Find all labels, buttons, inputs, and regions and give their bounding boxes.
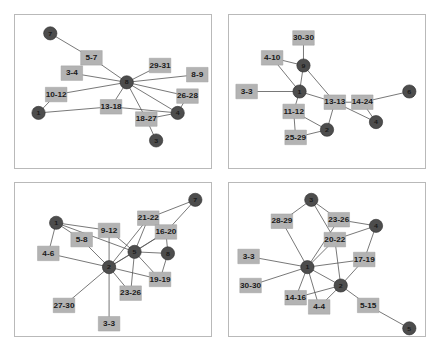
circle-node-label: 8 (125, 79, 129, 85)
square-node-label: 14-24 (352, 98, 374, 106)
square-node-label: 4-4 (313, 303, 326, 311)
panel-top-right: 30-304-103-313-1314-2411-1225-2991642 (228, 14, 426, 169)
square-node-label: 23-26 (120, 289, 141, 297)
circle-node-label: 2 (107, 264, 111, 270)
square-node-label: 26-28 (177, 92, 198, 100)
panel-bottom-left-canvas: 21-229-1216-205-84-619-1923-2627-303-371… (15, 183, 211, 336)
square-node-label: 19-19 (150, 275, 171, 283)
panel-top-right-canvas: 30-304-103-313-1314-2411-1225-2991642 (229, 15, 425, 168)
square-node-label: 30-30 (293, 34, 314, 42)
square-node-label: 27-30 (53, 301, 74, 309)
circle-node-label: 9 (302, 62, 306, 68)
circle-node-label: 7 (193, 197, 197, 203)
network-graph-figure: 5-729-313-48-910-1226-2813-1818-2778143 … (0, 0, 440, 348)
panel-top-left-canvas: 5-729-313-48-910-1226-2813-1818-2778143 (15, 15, 211, 168)
edge-group (39, 33, 198, 140)
circle-node-label: 2 (339, 282, 343, 288)
circle-node-label: 1 (298, 88, 302, 94)
circle-node-label: 2 (325, 127, 329, 133)
panel-bottom-right: 28-2923-2620-2217-193-330-3014-164-45-15… (228, 182, 426, 337)
panel-top-left: 5-729-313-48-910-1226-2813-1818-2778143 (14, 14, 212, 169)
square-node-label: 25-29 (285, 133, 306, 141)
circle-node-group: 78143 (32, 27, 184, 147)
square-node-label: 16-20 (155, 228, 176, 236)
circle-node-label: 5 (133, 249, 137, 255)
square-node-label: 4-6 (42, 249, 54, 257)
square-node-label: 5-8 (76, 236, 88, 244)
square-node-label: 30-30 (240, 282, 261, 290)
circle-node-label: 1 (37, 110, 41, 116)
circle-node-label: 6 (407, 88, 411, 94)
square-node-label: 3-4 (66, 69, 79, 77)
square-node-label: 21-22 (138, 214, 159, 222)
circle-node-label: 1 (305, 264, 309, 270)
panel-bottom-left: 21-229-1216-205-84-619-1923-2627-303-371… (14, 182, 212, 337)
square-node-label: 13-13 (324, 98, 345, 106)
circle-node-label: 4 (374, 119, 378, 125)
circle-node-label: 1 (54, 220, 58, 226)
square-node-label: 18-27 (136, 115, 157, 123)
square-node-label: 3-3 (241, 88, 253, 96)
circle-node-label: 3 (154, 137, 158, 143)
square-node-label: 13-18 (101, 103, 122, 111)
square-node-label: 17-19 (354, 256, 375, 264)
graph-edge (56, 223, 134, 252)
square-node-label: 4-10 (264, 54, 280, 62)
square-node-label: 3-3 (103, 320, 115, 328)
circle-node-label: 7 (48, 30, 52, 36)
square-node-label: 29-31 (150, 62, 171, 70)
square-node-label: 23-26 (328, 216, 349, 224)
square-node-label: 28-29 (271, 217, 292, 225)
square-node-label: 14-16 (285, 294, 306, 302)
square-node-label: 5-15 (360, 301, 376, 309)
square-node-label: 11-12 (283, 107, 304, 115)
graph-edge (127, 82, 178, 113)
square-node-label: 9-12 (101, 227, 117, 235)
circle-node-label: 3 (309, 197, 313, 203)
square-node-label: 10-12 (46, 91, 67, 99)
circle-node-label: 5 (407, 325, 411, 331)
square-node-label: 5-7 (85, 54, 97, 62)
square-node-label: 8-9 (191, 71, 203, 79)
circle-node-label: 4 (374, 223, 378, 229)
square-node-label: 3-3 (243, 253, 255, 261)
panel-bottom-right-canvas: 28-2923-2620-2217-193-330-3014-164-45-15… (229, 183, 425, 336)
square-node-label: 20-22 (324, 236, 345, 244)
circle-node-label: 8 (166, 250, 170, 256)
circle-node-label: 4 (176, 110, 180, 116)
